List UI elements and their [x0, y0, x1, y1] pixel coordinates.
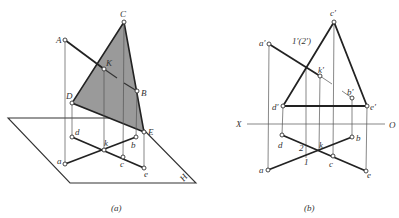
label-a: a [57, 156, 62, 166]
point-e-prime [365, 104, 369, 108]
label-K: K [105, 58, 113, 68]
point-a [266, 168, 270, 172]
caption-a: (a) [111, 203, 122, 213]
line-a-k-prime [269, 44, 320, 76]
label-b: b [131, 140, 136, 150]
line-ak [65, 40, 104, 69]
label-axis-o: O [389, 120, 396, 130]
label-c: c [329, 159, 333, 169]
label-k-prime: k′ [318, 65, 325, 75]
label-d: d [75, 127, 80, 137]
label-e-prime: e′ [370, 102, 377, 112]
triangle-front-view [283, 22, 367, 106]
projection-diagram: C A K B D E d b k a c e H (a) X O [0, 0, 399, 218]
point-b [350, 135, 354, 139]
point-d [70, 135, 74, 139]
label-k: k [104, 138, 109, 148]
projector-e [366, 106, 367, 171]
label-plane-h: H [177, 171, 190, 184]
label-a: a [259, 165, 264, 175]
label-D: D [65, 91, 73, 101]
label-2: 2 [299, 143, 304, 153]
point-C [122, 20, 126, 24]
label-e: e [367, 170, 371, 180]
point-a [63, 162, 67, 166]
point-d [280, 133, 284, 137]
label-a-prime: a′ [259, 38, 267, 48]
point-B [135, 89, 139, 93]
triangle-cde [72, 22, 144, 132]
point-d-prime [281, 104, 285, 108]
point-k [102, 148, 106, 152]
label-d: d [278, 140, 283, 150]
caption-b: (b) [304, 203, 315, 213]
point-b [134, 135, 138, 139]
label-B: B [141, 88, 147, 98]
label-C: C [120, 9, 127, 19]
label-axis-x: X [235, 119, 242, 129]
projector-a [268, 44, 269, 170]
label-E: E [147, 127, 154, 137]
label-d-prime: d′ [272, 102, 280, 112]
label-c-prime: c′ [330, 8, 337, 18]
top-line-de [282, 135, 366, 171]
label-e: e [144, 169, 148, 179]
label-1: 1 [304, 157, 309, 167]
label-A: A [55, 35, 62, 45]
point-a-prime [267, 42, 271, 46]
point-c-prime [332, 20, 336, 24]
figure-a: C A K B D E d b k a c e H (a) [8, 9, 196, 213]
point-D [70, 101, 74, 105]
label-1-2-prime: 1′(2′) [292, 36, 311, 46]
point-c [331, 154, 335, 158]
projector-c [333, 22, 334, 156]
point-A [63, 38, 67, 42]
label-b: b [356, 133, 361, 143]
point-E [142, 130, 146, 134]
figure-b: X O c′ a′ 1′(2′) k′ [235, 8, 396, 213]
projector-d [282, 106, 283, 135]
label-b-prime: b′ [347, 87, 355, 97]
label-c: c [120, 159, 124, 169]
